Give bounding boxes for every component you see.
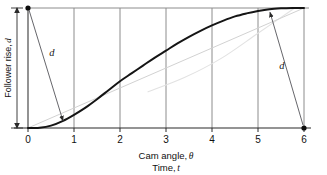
y-axis-label-text: Follower rise, xyxy=(3,44,13,98)
x-axis-label-time-text: Time, xyxy=(152,162,175,173)
xtick-label-1: 1 xyxy=(71,134,77,145)
x-axis-label-cam-angle: Cam angle,θ xyxy=(139,150,194,161)
xtick-label-5: 5 xyxy=(255,134,261,145)
deviation-label-right: d xyxy=(279,60,285,71)
end-point-marker xyxy=(301,125,306,130)
x-axis-label-time-symbol: t xyxy=(177,163,180,173)
y-axis-label: Follower rise,d xyxy=(3,38,13,98)
y-axis-label-group: Follower rise,d xyxy=(3,38,13,98)
xtick-label-4: 4 xyxy=(209,134,215,145)
y-axis-label-symbol: d xyxy=(3,38,13,43)
cam-displacement-figure: d d Follower rise,d 0 1 2 3 4 5 6 xyxy=(0,0,327,175)
start-point-marker xyxy=(25,5,30,10)
x-axis-label-cam-angle-text: Cam angle, xyxy=(139,150,188,161)
deviation-label-left: d xyxy=(49,47,55,58)
xtick-label-2: 2 xyxy=(117,134,123,145)
xtick-label-0: 0 xyxy=(25,134,31,145)
chart-svg: d d Follower rise,d 0 1 2 3 4 5 6 xyxy=(0,0,327,175)
figure-background xyxy=(0,0,327,175)
x-axis-label-cam-angle-symbol: θ xyxy=(189,151,194,161)
xtick-label-6: 6 xyxy=(301,134,307,145)
xtick-label-3: 3 xyxy=(163,134,169,145)
